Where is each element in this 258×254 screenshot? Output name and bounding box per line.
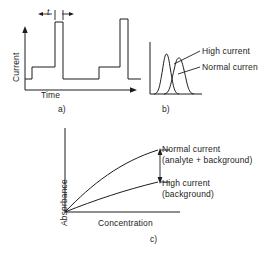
panel-a-y-axis-label: Current bbox=[11, 53, 22, 82]
panel-a-y-axis bbox=[22, 26, 27, 90]
panel-a: t Current Time a) bbox=[0, 0, 145, 118]
panel-c-x-axis-label: Concentration bbox=[98, 218, 153, 229]
panel-c-normal-current-curve bbox=[65, 150, 158, 212]
panel-c-normal-current-line2: (analyte + background) bbox=[162, 155, 252, 165]
panel-a-x-axis-label: Time bbox=[41, 90, 60, 101]
panel-b-high-current-peak bbox=[164, 58, 194, 94]
panel-a-letter: a) bbox=[58, 104, 66, 114]
panel-a-t-label: t bbox=[47, 7, 49, 17]
panel-c-high-current-label: High current (background) bbox=[162, 178, 214, 199]
panel-c-normal-current-label: Normal current (analyte + background) bbox=[162, 144, 252, 165]
panel-b: High current Normal current b) bbox=[140, 32, 258, 122]
panel-c-high-current-line2: (background) bbox=[162, 189, 214, 199]
panel-b-leader-lines bbox=[174, 51, 200, 74]
panel-c: Absorbance Concentration Normal current … bbox=[40, 118, 258, 254]
panel-c-high-current-line1: High current bbox=[162, 178, 210, 188]
panel-c-normal-current-line1: Normal current bbox=[162, 144, 220, 154]
figure-container: t Current Time a) High current Normal cu… bbox=[0, 0, 258, 254]
panel-a-t-dimension bbox=[38, 10, 74, 20]
panel-c-high-current-curve bbox=[65, 182, 158, 212]
panel-b-normal-current-peak bbox=[154, 54, 179, 94]
panel-a-plot bbox=[0, 0, 145, 118]
panel-b-normal-current-label: Normal current bbox=[202, 62, 258, 73]
panel-c-y-axis-label: Absorbance bbox=[59, 179, 70, 226]
panel-b-high-current-label: High current bbox=[202, 46, 250, 57]
panel-b-letter: b) bbox=[162, 104, 170, 114]
panel-c-plot bbox=[40, 118, 258, 254]
panel-a-waveform bbox=[25, 19, 141, 79]
panel-c-letter: c) bbox=[150, 234, 157, 244]
